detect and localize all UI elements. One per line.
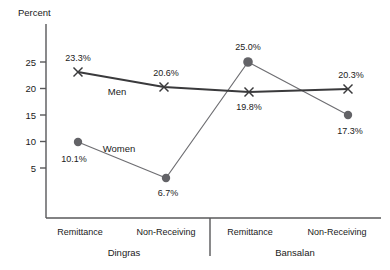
- data-label-men-1: 20.6%: [153, 68, 179, 78]
- group-label-bansalan: Bansalan: [275, 247, 315, 258]
- y-tick-label-10: 10: [25, 136, 36, 147]
- x-tick-label-1: Non-Receiving: [136, 227, 195, 237]
- data-point-women-0: [74, 138, 82, 146]
- data-point-women-2: [243, 57, 253, 67]
- data-label-women-1: 6.7%: [158, 188, 179, 198]
- data-label-men-2: 19.8%: [236, 102, 262, 112]
- y-tick-label-25: 25: [25, 57, 36, 68]
- x-tick-label-0: Remittance: [57, 227, 103, 237]
- y-tick-label-5: 5: [31, 163, 36, 174]
- y-axis-title: Percent: [18, 7, 51, 18]
- data-label-men-3: 20.3%: [338, 70, 364, 80]
- chart-container: Percent 25 20 15 10 5: [0, 0, 390, 270]
- data-point-women-3: [344, 111, 352, 119]
- data-label-women-2: 25.0%: [235, 42, 261, 52]
- series-label-women: Women: [103, 143, 136, 154]
- x-tick-label-3: Non-Receiving: [307, 227, 366, 237]
- group-label-dingras: Dingras: [108, 247, 141, 258]
- y-tick-label-20: 20: [25, 83, 36, 94]
- line-chart-svg: Percent 25 20 15 10 5: [0, 0, 390, 270]
- y-axis-ticks: 25 20 15 10 5: [25, 57, 46, 174]
- series-markers-women: [74, 57, 352, 182]
- data-label-women-0: 10.1%: [61, 154, 87, 164]
- data-label-women-3: 17.3%: [337, 126, 363, 136]
- y-tick-label-15: 15: [25, 110, 36, 121]
- data-label-men-0: 23.3%: [65, 53, 91, 63]
- series-label-men: Men: [108, 86, 126, 97]
- x-tick-label-2: Remittance: [227, 227, 273, 237]
- data-point-women-1: [162, 174, 170, 182]
